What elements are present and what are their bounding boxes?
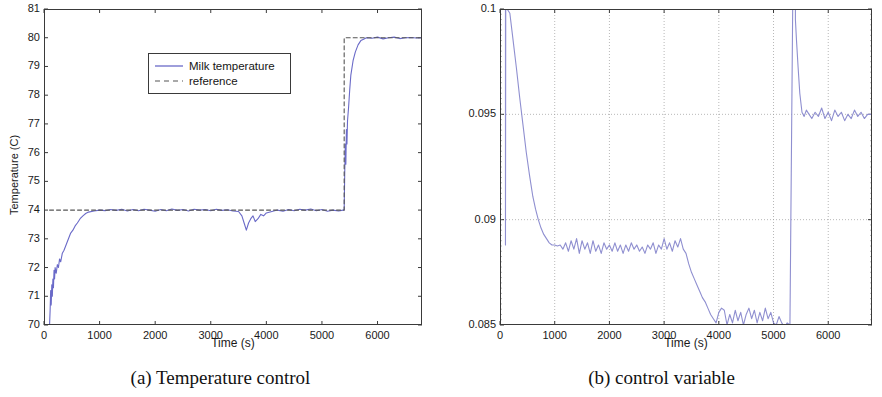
x-tick-label: 0 <box>470 329 530 341</box>
figure-container: Temperature (C) Time (s) Milk temperatur… <box>0 0 882 397</box>
legend-swatch-solid-icon <box>154 61 184 71</box>
y-tick-label: 79 <box>0 59 40 71</box>
x-tick-label: 4000 <box>689 329 749 341</box>
x-tick-label: 3000 <box>181 329 241 341</box>
plot-area-a: Temperature (C) Time (s) Milk temperatur… <box>0 0 441 350</box>
y-tick-label: 76 <box>0 146 40 158</box>
y-tick-label: 80 <box>0 31 40 43</box>
y-tick-label: 81 <box>0 2 40 14</box>
y-tick-label: 0.09 <box>452 213 496 225</box>
panel-control-variable: Flow (m3/s) Time (s) 0.0850.090.0950.101… <box>441 0 882 397</box>
x-tick-label: 1000 <box>525 329 585 341</box>
y-tick-label: 72 <box>0 261 40 273</box>
legend-a: Milk temperature reference <box>148 53 291 94</box>
x-tick-label: 5000 <box>744 329 804 341</box>
x-tick-label: 6000 <box>348 329 408 341</box>
legend-entry-milk-temperature: Milk temperature <box>154 58 284 73</box>
y-tick-label: 78 <box>0 88 40 100</box>
axes-frame-b <box>500 9 872 325</box>
legend-swatch-dashed-icon <box>154 76 184 86</box>
x-tick-label: 2000 <box>579 329 639 341</box>
y-tick-label: 75 <box>0 174 40 186</box>
legend-label-reference: reference <box>189 75 238 87</box>
y-tick-label: 0.095 <box>452 107 496 119</box>
legend-entry-reference: reference <box>154 73 284 88</box>
x-tick-label: 6000 <box>798 329 858 341</box>
y-tick-label: 0.1 <box>452 2 496 14</box>
y-tick-label: 71 <box>0 289 40 301</box>
y-tick-label: 73 <box>0 232 40 244</box>
x-tick-label: 2000 <box>125 329 185 341</box>
panel-temperature-control: Temperature (C) Time (s) Milk temperatur… <box>0 0 441 397</box>
legend-label-milk-temperature: Milk temperature <box>189 60 275 72</box>
x-tick-label: 3000 <box>634 329 694 341</box>
x-tick-label: 1000 <box>70 329 130 341</box>
caption-b: (b) control variable <box>441 367 882 389</box>
y-tick-label: 77 <box>0 117 40 129</box>
y-tick-label: 74 <box>0 203 40 215</box>
caption-a: (a) Temperature control <box>0 367 441 389</box>
x-tick-label: 5000 <box>292 329 352 341</box>
x-tick-label: 4000 <box>236 329 296 341</box>
x-tick-label: 0 <box>14 329 74 341</box>
plot-area-b: Flow (m3/s) Time (s) 0.0850.090.0950.101… <box>441 0 882 350</box>
